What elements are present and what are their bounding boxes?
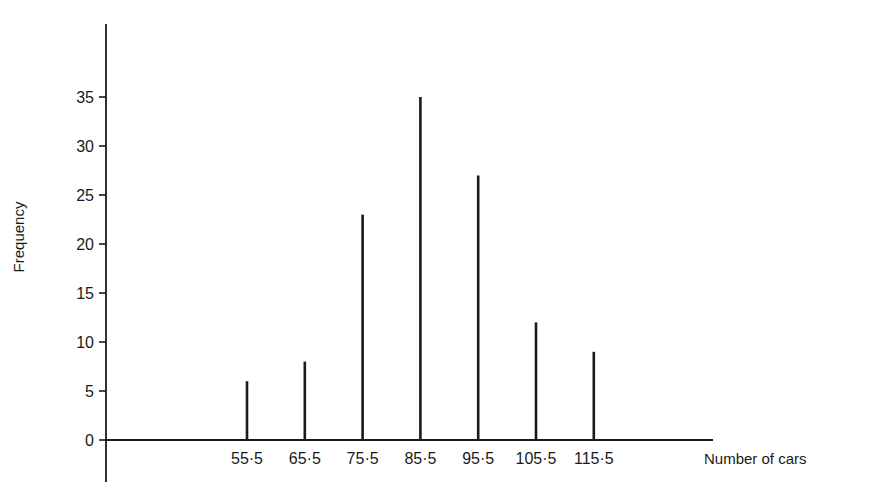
- y-tick-label: 30: [76, 138, 94, 155]
- x-tick-label: 115·5: [574, 450, 614, 467]
- y-tick-label: 0: [85, 432, 94, 449]
- line-diagram-chart: 05101520253035 55·565·575·585·595·5105·5…: [0, 0, 877, 497]
- y-axis-title: Frequency: [10, 201, 27, 272]
- y-tick-label: 10: [76, 334, 94, 351]
- axes: [106, 24, 713, 482]
- x-tick-label: 105·5: [516, 450, 557, 467]
- y-tick-label: 25: [76, 187, 94, 204]
- x-tick-labels: 55·565·575·585·595·5105·5115·5: [231, 450, 614, 467]
- y-ticks: 05101520253035: [76, 89, 106, 449]
- x-tick-label: 75·5: [347, 450, 379, 467]
- x-tick-label: 65·5: [289, 450, 321, 467]
- y-tick-label: 20: [76, 236, 94, 253]
- bars: [247, 97, 594, 440]
- x-tick-label: 55·5: [231, 450, 263, 467]
- y-tick-label: 5: [85, 383, 94, 400]
- y-tick-label: 35: [76, 89, 94, 106]
- x-axis-title: Number of cars: [704, 450, 807, 467]
- x-tick-label: 85·5: [404, 450, 436, 467]
- y-tick-label: 15: [76, 285, 94, 302]
- x-tick-label: 95·5: [462, 450, 494, 467]
